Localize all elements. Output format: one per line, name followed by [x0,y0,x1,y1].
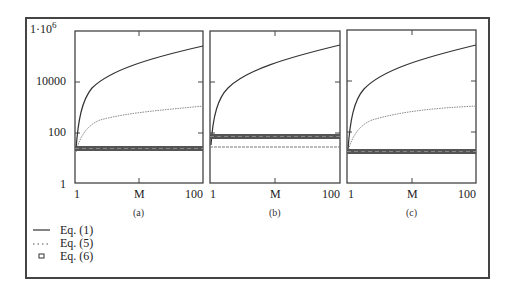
x-tick-start-b: 1 [210,187,216,202]
solid-line-icon [30,224,52,237]
dotted-line-icon [30,237,52,250]
y-tick-1: 1 [22,177,66,192]
x-tick-start-c: 1 [348,187,354,202]
y-tick-100: 100 [22,125,66,140]
y-tick-1e6: 1·106 [30,20,74,37]
panel-c [347,30,476,183]
caption-b: (b) [269,207,281,218]
x-tick-mid-c: M [407,187,418,202]
panel-b [210,31,340,183]
square-marker-icon [30,250,52,263]
x-tick-mid-a: M [134,187,145,202]
caption-a: (a) [133,207,144,218]
x-tick-end-b: 100 [322,187,340,202]
x-tick-mid-b: M [270,187,281,202]
caption-c: (c) [406,207,417,218]
panel-a [75,31,203,183]
x-tick-start-a: 1 [74,187,80,202]
x-tick-end-a: 100 [185,187,203,202]
y-tick-10000: 10000 [22,74,66,89]
x-tick-end-c: 100 [458,187,476,202]
